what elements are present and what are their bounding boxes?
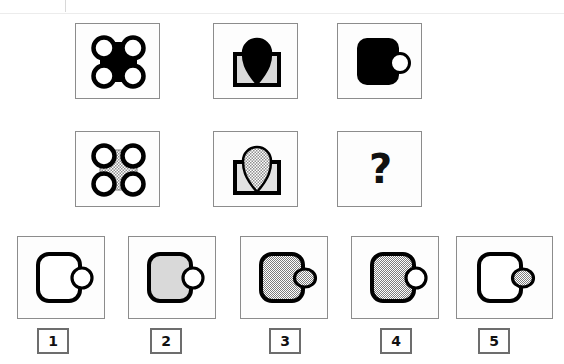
option-2-figure xyxy=(129,237,215,318)
question-mark-glyph: ? xyxy=(338,132,423,208)
matrix-figure-r2c2 xyxy=(214,132,297,206)
matrix-figure-r1c2 xyxy=(214,24,297,98)
matrix-cell-r1c1 xyxy=(75,23,160,99)
option-number-1[interactable]: 1 xyxy=(37,328,69,354)
option-3-figure xyxy=(241,237,327,318)
page-header-strip xyxy=(0,0,564,14)
matrix-cell-r1c3 xyxy=(337,23,422,99)
option-number-3[interactable]: 3 xyxy=(269,328,301,354)
option-number-2[interactable]: 2 xyxy=(150,328,182,354)
option-4[interactable] xyxy=(351,236,439,319)
option-4-figure xyxy=(352,237,438,318)
matrix-figure-r1c3 xyxy=(338,24,421,98)
option-1[interactable] xyxy=(17,236,105,319)
four-circle-figure-stippled xyxy=(94,146,144,195)
matrix-cell-r2c3-missing: ? xyxy=(337,131,422,207)
header-divider xyxy=(65,0,66,12)
option-5-figure xyxy=(457,237,552,318)
square-circle-white-white xyxy=(38,254,92,301)
option-number-4[interactable]: 4 xyxy=(380,328,412,354)
matrix-figure-r2c1 xyxy=(76,132,159,206)
square-circle-grey-white xyxy=(149,254,203,301)
option-1-figure xyxy=(18,237,104,318)
option-5[interactable] xyxy=(456,236,553,319)
square-circle-figure-solid xyxy=(357,38,410,85)
envelope-teardrop-figure-stippled xyxy=(235,147,279,193)
matrix-figure-r1c1 xyxy=(76,24,159,98)
option-3[interactable] xyxy=(240,236,328,319)
four-circle-figure-solid xyxy=(94,38,144,87)
square-circle-white-stipple xyxy=(479,254,534,301)
option-2[interactable] xyxy=(128,236,216,319)
envelope-teardrop-figure-solid xyxy=(235,39,279,85)
matrix-cell-r1c2 xyxy=(213,23,298,99)
option-number-5[interactable]: 5 xyxy=(478,328,510,354)
matrix-cell-r2c2 xyxy=(213,131,298,207)
matrix-cell-r2c1 xyxy=(75,131,160,207)
square-circle-stipple-stipple xyxy=(261,254,316,301)
square-circle-stipple-white xyxy=(372,254,426,301)
